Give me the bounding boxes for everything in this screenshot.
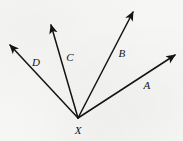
ray-label-c: C [66, 52, 74, 63]
ray-a-line [78, 55, 175, 118]
ray-label-b: B [119, 48, 126, 59]
ray-label-a: A [144, 80, 151, 91]
vertex-label-x: X [75, 125, 82, 136]
rays-canvas [0, 0, 183, 141]
ray-b-line [78, 12, 133, 118]
ray-label-d: D [32, 57, 40, 68]
angle-diagram-figure: A B C D X [0, 0, 183, 141]
